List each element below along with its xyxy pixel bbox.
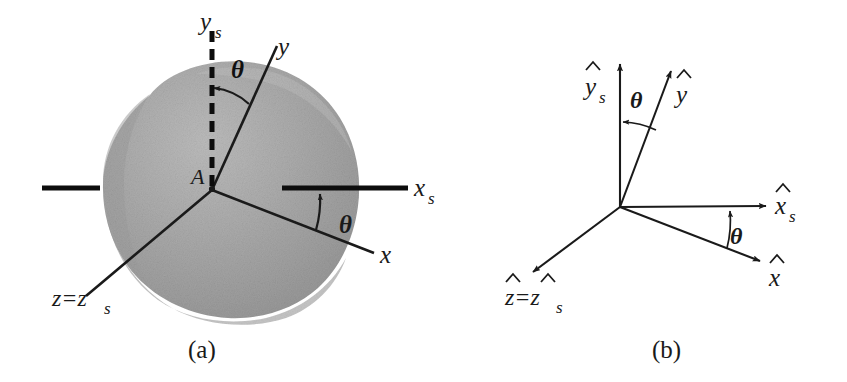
figure-canvas: y s y θ x s θ x z=z s A (a) y [0,0,847,382]
rigid-body-shape [103,61,359,325]
label-xs-hat-sub-b: s [789,207,796,226]
label-ys-hat-b: y s [582,62,606,107]
hat-caret-ys-b [586,62,600,70]
hat-caret-z2-b [541,274,555,282]
panel-b: y s y θ x s x θ z=z s (b) [504,62,796,364]
label-ys-hat-sub-b: s [599,88,606,107]
hat-caret-z1-b [506,274,520,282]
label-xs-hat-b: x s [774,184,796,226]
axis-xs-hat-b [620,206,766,207]
label-origin-a: A [189,164,205,189]
label-z-sub-a: s [104,299,111,318]
label-theta-lower-b: θ [730,223,743,249]
axis-z-hat-b [533,207,620,272]
label-xs-hat-letter-b: x [774,192,786,219]
caption-panel-a: (a) [188,336,216,364]
label-z-hat-letters-b: z=z [504,284,541,310]
label-xs-sub-a: s [428,189,435,208]
label-theta-upper-b: θ [630,87,643,113]
label-xs-a: x [413,174,425,201]
panel-a: y s y θ x s θ x z=z s A (a) [42,8,435,364]
label-theta-lower-a: θ [339,211,352,238]
axis-y-hat-b [620,71,671,207]
hat-caret-x-b [770,255,784,263]
origin-point-a [209,186,215,192]
label-z-hat-sub-b: s [556,298,563,317]
caption-panel-b: (b) [652,336,681,364]
hat-caret-xs-b [776,184,790,192]
label-z-a: z=z [51,285,88,311]
label-x-hat-b: x [768,255,784,291]
label-theta-upper-a: θ [231,56,244,83]
hat-caret-y-b [677,70,691,78]
label-ys-a: y [197,8,212,35]
label-y-hat-letter-b: y [673,81,688,108]
label-y-a: y [275,33,290,60]
label-x-hat-letter-b: x [768,264,780,291]
label-ys-sub-a: s [215,23,222,42]
diagram-svg: y s y θ x s θ x z=z s A (a) y [0,0,847,382]
label-z-hat-b: z=z s [504,274,563,317]
label-ys-hat-letter-b: y [582,73,597,100]
label-x-a: x [379,241,391,268]
label-y-hat-b: y [673,70,691,108]
